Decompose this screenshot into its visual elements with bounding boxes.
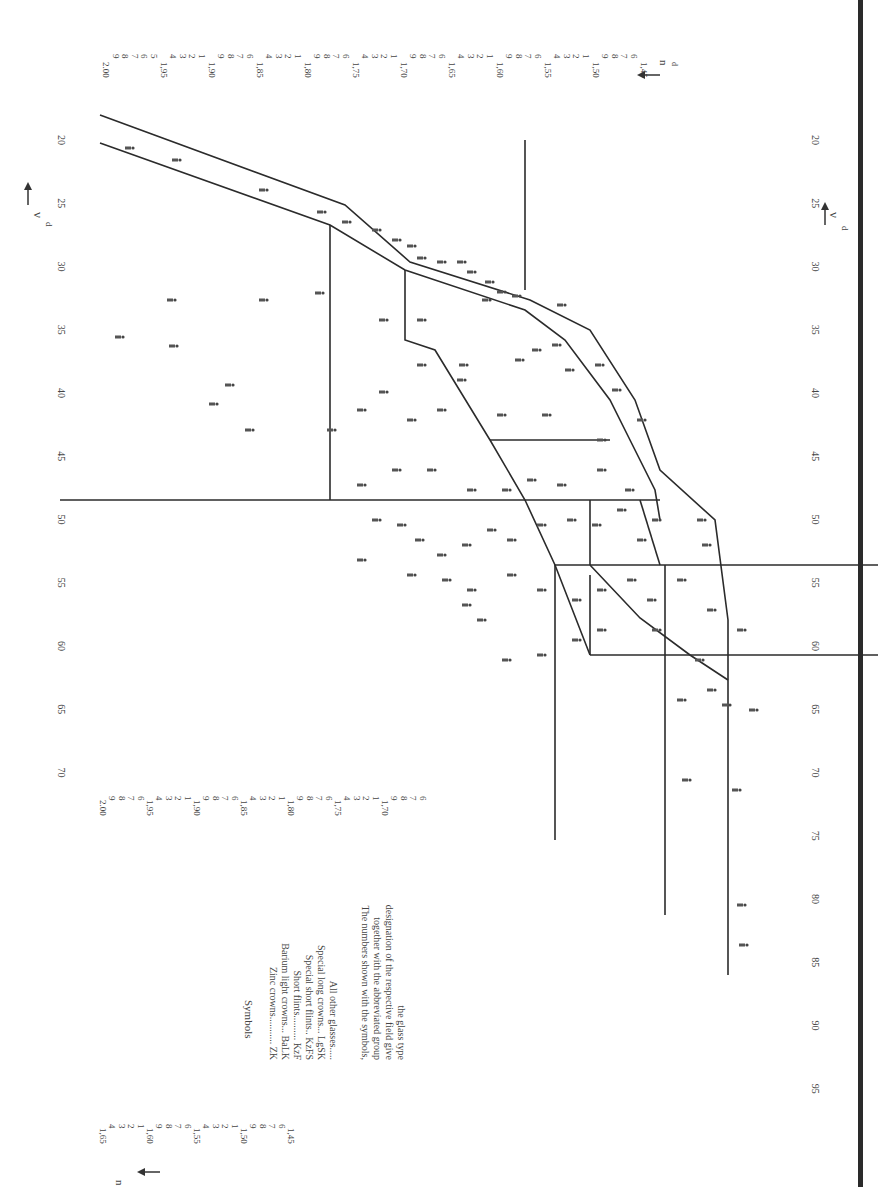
- glass-type-dot: [433, 468, 436, 471]
- vd-tick-label-right: 70: [810, 768, 821, 778]
- glass-type-dot: [348, 220, 351, 223]
- nd-tick-label-top: 7: [331, 54, 341, 59]
- nd-tick-label-top: 4: [360, 54, 370, 59]
- glass-type-marker: [592, 524, 598, 527]
- glass-type-dot: [558, 343, 561, 346]
- nd-tick-label-mid: 6: [418, 796, 428, 801]
- glass-type-marker: [557, 484, 563, 487]
- nd-tick-label-mid: 1,90: [192, 800, 202, 816]
- nd-tick-label-top: 1,55: [543, 62, 553, 78]
- nd-tick-label-top: 8: [120, 54, 130, 59]
- glass-type-dot: [543, 653, 546, 656]
- nd-tick-label-mid: 2: [267, 796, 277, 801]
- vd-arrowhead-icon: [24, 182, 32, 190]
- glass-type-marker: [342, 221, 348, 224]
- glass-type-dot: [443, 553, 446, 556]
- page-edge-bar: [858, 0, 863, 1187]
- nd-tick-label-bottom: 8: [164, 1124, 174, 1129]
- glass-type-dot: [265, 298, 268, 301]
- glass-type-marker: [327, 429, 333, 432]
- legend-entry: Special long crowns... LgSK: [316, 945, 327, 1061]
- glass-type-marker: [625, 489, 631, 492]
- glass-type-marker: [532, 349, 538, 352]
- glass-type-dot: [623, 508, 626, 511]
- nd-tick-label-mid: 3: [164, 796, 174, 801]
- glass-type-marker: [357, 409, 363, 412]
- glass-type-marker: [417, 319, 423, 322]
- vd-tick-label-right: 50: [810, 515, 821, 525]
- vd-tick-label-right: 25: [810, 198, 821, 208]
- glass-type-marker: [677, 699, 683, 702]
- glass-type-dot: [563, 483, 566, 486]
- glass-type-dot: [385, 318, 388, 321]
- glass-type-marker: [167, 299, 173, 302]
- glass-type-dot: [533, 478, 536, 481]
- vd-tick-label-left: 65: [56, 704, 67, 714]
- glass-type-dot: [508, 488, 511, 491]
- glass-type-dot: [513, 573, 516, 576]
- nd-tick-label-bottom: 1,60: [145, 1128, 155, 1144]
- glass-type-dot: [548, 413, 551, 416]
- nd-tick-label-top: 9: [312, 54, 322, 59]
- nd-tick-label-bottom: 9: [248, 1124, 258, 1129]
- nd-tick-label-mid: 9: [389, 796, 399, 801]
- glass-type-dot: [571, 368, 574, 371]
- nd-tick-label-top: 2: [475, 54, 485, 59]
- glass-type-marker: [457, 261, 463, 264]
- nd-tick-label-top: 7: [523, 54, 533, 59]
- glass-type-marker: [572, 599, 578, 602]
- nd-tick-label-bottom: 4: [107, 1124, 117, 1129]
- nd-tick-label-top: 2: [571, 54, 581, 59]
- glass-type-marker: [537, 524, 543, 527]
- nd-tick-label-mid: 3: [258, 796, 268, 801]
- glass-type-marker: [739, 944, 745, 947]
- glass-type-dot: [473, 588, 476, 591]
- glass-type-dot: [491, 280, 494, 283]
- glass-type-dot: [423, 363, 426, 366]
- glass-type-dot: [378, 518, 381, 521]
- glass-type-dot: [538, 348, 541, 351]
- glass-type-marker: [515, 359, 521, 362]
- glass-type-marker: [442, 579, 448, 582]
- glass-type-marker: [437, 409, 443, 412]
- nd-tick-label-mid: 3: [352, 796, 362, 801]
- glass-type-marker: [627, 579, 633, 582]
- abbe-diagram: 2.00987651,9543211,9098761,8543211,80987…: [0, 0, 878, 1187]
- glass-type-dot: [683, 698, 686, 701]
- nd-tick-label-bottom: 2: [220, 1124, 230, 1129]
- nd-tick-label-top: 9: [216, 54, 226, 59]
- glass-type-marker: [482, 299, 488, 302]
- glass-type-marker: [457, 379, 463, 382]
- glass-type-dot: [743, 628, 746, 631]
- vd-tick-label-left: 50: [56, 515, 67, 525]
- glass-type-marker: [417, 257, 423, 260]
- glass-type-dot: [713, 688, 716, 691]
- glass-type-marker: [459, 364, 465, 367]
- glass-type-dot: [443, 408, 446, 411]
- nd-tick-label-bottom: 3: [211, 1124, 221, 1129]
- vd-tick-label-right: 60: [810, 641, 821, 651]
- glass-type-dot: [708, 543, 711, 546]
- glass-type-dot: [488, 298, 491, 301]
- glass-type-marker: [597, 469, 603, 472]
- glass-type-dot: [175, 344, 178, 347]
- glass-type-dot: [413, 573, 416, 576]
- nd-tick-label-bottom: 1,45: [286, 1128, 296, 1144]
- glass-type-marker: [467, 271, 473, 274]
- vd-tick-label-left: 40: [56, 388, 67, 398]
- glass-type-marker: [652, 629, 658, 632]
- vd-axis-label-right: ν: [827, 212, 842, 218]
- vd-tick-label-right: 45: [810, 451, 821, 461]
- glass-type-dot: [643, 538, 646, 541]
- glass-type-marker: [485, 281, 491, 284]
- glass-type-dot: [513, 538, 516, 541]
- glass-type-marker: [647, 599, 653, 602]
- glass-type-dot: [713, 608, 716, 611]
- glass-type-marker: [722, 704, 728, 707]
- nd-tick-label-top: 4: [168, 54, 178, 59]
- glass-type-marker: [612, 389, 618, 392]
- vd-tick-label-right: 55: [810, 578, 821, 588]
- nd-tick-label-mid: 2: [361, 796, 371, 801]
- nd-tick-label-top: 1: [581, 54, 591, 59]
- nd-tick-label-mid: 7: [220, 796, 230, 801]
